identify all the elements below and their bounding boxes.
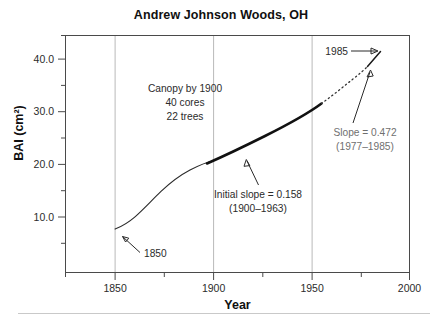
- start-year-label: 1850: [144, 248, 167, 259]
- annotation-recent-slope: Slope = 0.472 (1977–1985): [333, 70, 396, 152]
- series-line-transition-dotted: [322, 67, 368, 104]
- plot-area: 40.0 30.0 20.0 10.0 1850 1900 1950 2000: [0, 0, 442, 321]
- x-tick-label-1850: 1850: [103, 282, 127, 294]
- y-tick-label-20: 20.0: [34, 158, 55, 170]
- canopy-note-line1: Canopy by 1900: [148, 83, 223, 94]
- recent-slope-line1: Slope = 0.472: [333, 127, 396, 138]
- canopy-note-line2: 40 cores: [165, 97, 204, 108]
- annotation-start-year: 1850: [123, 237, 167, 260]
- y-tick-label-40: 40.0: [34, 53, 55, 65]
- initial-slope-line2: (1900–1963): [229, 203, 287, 214]
- annotation-initial-slope: Initial slope = 0.158 (1900–1963): [214, 160, 302, 215]
- footer-divider: [18, 313, 430, 314]
- recent-slope-leader-line: [353, 72, 370, 123]
- x-tick-label-2000: 2000: [398, 282, 422, 294]
- series-line-recent-slope: [368, 52, 381, 67]
- gridlines-vertical: [115, 36, 312, 272]
- series-line-initial-slope-bold: [207, 104, 322, 164]
- x-tick-label-1900: 1900: [202, 282, 226, 294]
- recent-slope-line2: (1977–1985): [336, 141, 394, 152]
- canopy-note-line3: 22 trees: [167, 111, 204, 122]
- y-axis-minor-ticks: [61, 36, 66, 244]
- plot-frame: [66, 36, 410, 273]
- x-tick-label-1950: 1950: [300, 282, 324, 294]
- end-year-label: 1985: [325, 46, 348, 57]
- chart-figure: Andrew Johnson Woods, OH BAI (cm²) Year: [0, 0, 442, 321]
- initial-slope-line1: Initial slope = 0.158: [214, 189, 302, 200]
- y-tick-label-10: 10.0: [34, 211, 55, 223]
- y-tick-label-30: 30.0: [34, 105, 55, 117]
- annotation-canopy-note: Canopy by 1900 40 cores 22 trees: [148, 83, 223, 122]
- annotation-end-year: 1985: [325, 46, 378, 57]
- start-year-leader-line: [123, 237, 141, 253]
- recent-slope-arrow-icon: [367, 70, 373, 77]
- series-line-early: [115, 161, 214, 229]
- initial-slope-arrow-icon: [244, 160, 250, 167]
